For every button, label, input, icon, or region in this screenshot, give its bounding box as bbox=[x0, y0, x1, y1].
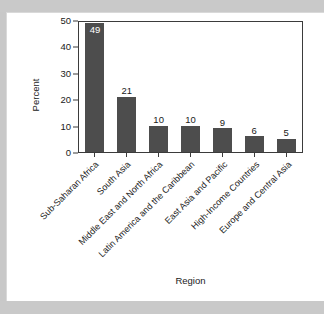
bar[interactable]: 9 bbox=[213, 128, 232, 152]
x-axis-tick-mark bbox=[94, 153, 95, 157]
page-background-band-top bbox=[0, 0, 324, 12]
bar-slot: 10 bbox=[175, 22, 207, 152]
bar-slot: 21 bbox=[111, 22, 143, 152]
bar-value-label: 49 bbox=[90, 25, 101, 35]
bar[interactable]: 6 bbox=[245, 136, 264, 152]
y-axis-tick-label: 40 bbox=[60, 43, 71, 53]
x-axis-tick-mark bbox=[286, 153, 287, 157]
bar-slot: 10 bbox=[143, 22, 175, 152]
x-axis-tick-mark bbox=[222, 153, 223, 157]
x-axis-category-labels: Sub-Saharan AfricaSouth AsiaMiddle East … bbox=[78, 158, 303, 258]
x-axis-tick-mark bbox=[190, 153, 191, 157]
x-axis-category-label: Sub-Saharan Africa bbox=[39, 160, 101, 222]
bar-slot: 49 bbox=[79, 22, 111, 152]
bar[interactable]: 5 bbox=[277, 139, 296, 152]
x-axis-tick-mark bbox=[158, 153, 159, 157]
x-axis-tick-mark bbox=[254, 153, 255, 157]
bar[interactable]: 10 bbox=[181, 126, 200, 152]
bar-slot: 5 bbox=[270, 22, 302, 152]
bar[interactable]: 49 bbox=[85, 23, 104, 152]
y-axis-tick-label: 10 bbox=[60, 122, 71, 132]
bar-value-label: 21 bbox=[121, 86, 132, 96]
x-axis-tick-mark bbox=[126, 153, 127, 157]
bar-value-label: 6 bbox=[252, 126, 257, 136]
y-axis-ticks: 01020304050 bbox=[7, 21, 78, 153]
bar-value-label: 5 bbox=[283, 128, 288, 138]
y-axis-tick-label: 30 bbox=[60, 69, 71, 79]
x-axis-title: Region bbox=[78, 275, 303, 286]
plot-area: 49211010965 bbox=[78, 21, 303, 153]
bar-value-label: 9 bbox=[220, 118, 225, 128]
x-axis-label-slot: Europe and Central Asia bbox=[271, 158, 303, 258]
bar-series: 49211010965 bbox=[79, 22, 302, 152]
plot-inner: 49211010965 bbox=[79, 22, 302, 152]
bar[interactable]: 10 bbox=[149, 126, 168, 152]
bar[interactable]: 21 bbox=[117, 97, 136, 152]
y-axis-tick-label: 50 bbox=[60, 16, 71, 26]
bar-value-label: 10 bbox=[153, 115, 164, 125]
y-axis-tick-label: 20 bbox=[60, 95, 71, 105]
page-background-band-bottom bbox=[0, 301, 324, 314]
bar-slot: 9 bbox=[206, 22, 238, 152]
figure-screenshot: Percent 01020304050 49211010965 Sub-Saha… bbox=[0, 0, 324, 314]
figure-card: Percent 01020304050 49211010965 Sub-Saha… bbox=[6, 12, 324, 301]
bar-slot: 6 bbox=[238, 22, 270, 152]
bar-value-label: 10 bbox=[185, 115, 196, 125]
y-axis-tick-label: 0 bbox=[66, 148, 71, 158]
